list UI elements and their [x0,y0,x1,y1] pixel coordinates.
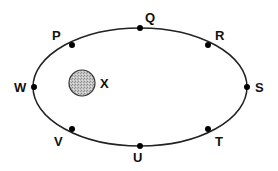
orbit-ellipse [33,28,247,146]
position-dot-r [205,42,211,48]
position-dot-u [137,143,143,149]
position-dot-w [31,84,37,90]
position-dot-p [69,42,75,48]
position-label-v: V [54,134,63,149]
position-dot-t [205,126,211,132]
position-dot-v [69,126,75,132]
position-label-r: R [215,28,225,43]
orbit-positions: PQRSTUVW [14,10,264,165]
position-label-p: P [52,28,61,43]
position-label-u: U [133,150,142,165]
position-label-s: S [255,80,264,95]
position-dot-s [244,84,250,90]
position-label-t: T [215,134,223,149]
orbit-diagram: X PQRSTUVW [0,0,278,171]
position-label-q: Q [145,10,155,25]
position-label-w: W [14,80,27,95]
central-body-x [69,70,95,96]
position-dot-q [137,25,143,31]
central-body-label: X [100,76,109,91]
